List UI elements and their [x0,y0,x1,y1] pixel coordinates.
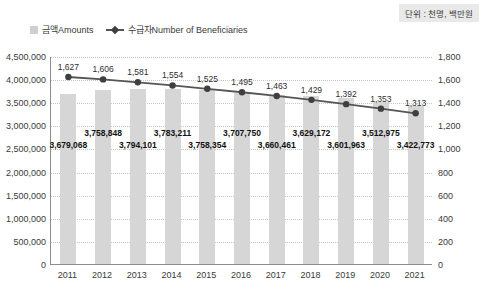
legend-beneficiaries-label: 수급자Number of Beneficiaries [128,23,248,36]
chart-legend: 금액Amounts 수급자Number of Beneficiaries [30,23,248,36]
y-axis-right-tick-label: 400 [438,214,478,224]
chart-figure: 단위 : 천명, 백만원 금액Amounts 수급자Number of Bene… [0,0,483,290]
line-marker [308,97,314,103]
line-marker [343,101,349,107]
plot-area: 3,679,0683,758,8483,794,1013,783,2113,75… [50,57,432,265]
y-axis-left-tick-label: 500,000 [0,237,46,247]
line-marker [239,89,245,95]
y-axis-right-tick-label: 1,800 [438,52,478,62]
line-marker [100,76,106,82]
x-axis-year-label: 2021 [395,270,435,280]
bar-value-label: 3,660,461 [247,140,307,150]
y-axis-right-tick-label: 800 [438,168,478,178]
y-axis-left-tick-label: 3,500,000 [0,98,46,108]
beneficiaries-line [51,57,433,265]
bar-value-label: 3,512,975 [351,128,411,138]
line-marker [65,74,71,80]
y-axis-left-tick-label: 1,000,000 [0,214,46,224]
legend-item-amounts: 금액Amounts [30,23,94,36]
bar-value-label: 3,707,750 [212,128,272,138]
bar-value-label: 3,783,211 [143,128,203,138]
y-axis-left-tick-label: 0 [0,260,46,270]
y-axis-left-tick-label: 3,000,000 [0,121,46,131]
line-marker [204,86,210,92]
y-axis-left-tick-label: 4,000,000 [0,75,46,85]
legend-amounts-label: 금액Amounts [42,23,94,36]
line-marker [412,110,418,116]
amounts-swatch-icon [30,26,38,34]
beneficiaries-line-marker-icon [106,26,124,34]
line-value-label: 1,313 [394,98,438,108]
line-marker [169,82,175,88]
bar-value-label: 3,758,354 [177,140,237,150]
bar-value-label: 3,679,068 [38,140,98,150]
line-marker [274,93,280,99]
y-axis-right-tick-label: 1,600 [438,75,478,85]
bar-value-label: 3,422,773 [386,140,446,150]
bar-value-label: 3,758,848 [73,128,133,138]
bar-value-label: 3,601,963 [316,140,376,150]
y-axis-left-tick-label: 4,500,000 [0,52,46,62]
y-axis-right-tick-label: 1,200 [438,121,478,131]
y-axis-left-tick-label: 2,000,000 [0,168,46,178]
y-axis-right-tick-label: 1,400 [438,98,478,108]
y-axis-right-tick-label: 200 [438,237,478,247]
legend-item-beneficiaries: 수급자Number of Beneficiaries [106,23,248,36]
bar-value-label: 3,629,172 [281,128,341,138]
line-marker [135,79,141,85]
y-axis-left-tick-label: 1,500,000 [0,191,46,201]
bar-value-label: 3,794,101 [108,140,168,150]
unit-label: 단위 : 천명, 백만원 [399,4,479,22]
y-axis-right-tick-label: 600 [438,191,478,201]
line-marker [378,105,384,111]
y-axis-right-tick-label: 0 [438,260,478,270]
